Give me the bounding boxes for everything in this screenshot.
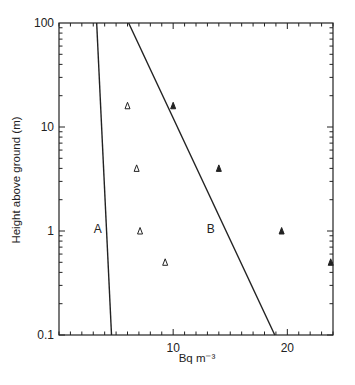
filled-triangle-marker xyxy=(216,165,221,172)
x-axis-title: Bq m⁻³ xyxy=(179,352,216,364)
y-tick-label: 0.1 xyxy=(37,328,54,342)
plot-frame xyxy=(59,23,333,335)
data-markers xyxy=(125,102,333,265)
open-triangle-marker xyxy=(125,102,130,109)
x-tick-label: 20 xyxy=(281,341,295,355)
filled-triangle-marker xyxy=(171,102,176,109)
reference-lines: AB xyxy=(94,23,275,335)
reference-line-b xyxy=(129,23,275,335)
open-triangle-marker xyxy=(138,228,143,235)
reference-line-a xyxy=(97,23,112,335)
y-tick-label: 100 xyxy=(34,16,54,30)
open-triangle-marker xyxy=(134,165,139,172)
reference-line-label: B xyxy=(207,222,215,236)
open-triangle-marker xyxy=(163,259,168,266)
chart: 1020 0.1110100 AB Bq m⁻³ Height above gr… xyxy=(0,0,355,385)
y-axis-ticks: 0.1110100 xyxy=(34,16,333,342)
y-axis-title: Height above ground (m) xyxy=(10,116,22,243)
plot-border xyxy=(59,23,333,335)
y-tick-label: 1 xyxy=(47,224,54,238)
filled-triangle-marker xyxy=(279,228,284,235)
x-axis-ticks: 1020 xyxy=(59,23,333,355)
y-tick-label: 10 xyxy=(41,120,55,134)
reference-line-label: A xyxy=(94,222,102,236)
